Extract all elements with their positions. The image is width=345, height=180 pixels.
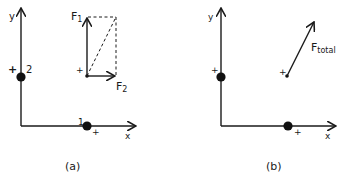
ftotal-vector-arrow xyxy=(287,22,314,76)
panel-b: y x + + + Ftotal (b) xyxy=(208,8,336,173)
charge-2-label: 2 xyxy=(26,64,32,75)
ftotal-label: Ftotal xyxy=(311,41,336,55)
x-axis-label: x xyxy=(325,131,331,141)
f2-label: F2 xyxy=(116,80,127,94)
charge-1-sign: + xyxy=(92,127,100,137)
caption-b: (b) xyxy=(266,160,282,173)
caption-a: (a) xyxy=(65,160,80,173)
dashed-diagonal xyxy=(87,17,116,76)
charge-1-dot xyxy=(82,121,91,130)
panel-a: y x + 2 1 + + F1 F2 (a) xyxy=(8,8,136,173)
charge-2-dot xyxy=(16,72,25,81)
test-point-sign: + xyxy=(279,67,287,77)
charge-1-label: 1 xyxy=(78,117,84,127)
charge-1-sign: + xyxy=(294,127,302,137)
y-axis-label: y xyxy=(208,12,214,22)
charge-2-sign: + xyxy=(8,63,17,76)
f1-label: F1 xyxy=(71,10,82,24)
charge-2-sign: + xyxy=(211,65,219,75)
diagram-canvas: y x + 2 1 + + F1 F2 (a) y xyxy=(0,0,345,180)
x-axis-label: x xyxy=(125,131,131,141)
test-point-sign: + xyxy=(76,65,84,75)
y-axis-label: y xyxy=(9,11,15,22)
charge-1-dot xyxy=(283,121,292,130)
